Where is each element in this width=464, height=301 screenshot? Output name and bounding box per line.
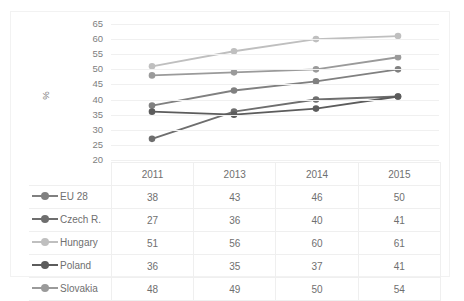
table-row: Hungary51566061 (29, 232, 441, 255)
data-point (149, 72, 156, 79)
table-row: Poland36353741 (29, 255, 441, 278)
legend-marker-icon (32, 214, 58, 224)
table-cell: 35 (194, 255, 276, 278)
legend-key: Slovakia (32, 283, 98, 294)
data-point (149, 136, 156, 143)
table-cell: 41 (358, 255, 440, 278)
plot-area (111, 24, 439, 160)
chart-figure: % 65605550454035302520 2011201320142015E… (10, 11, 450, 277)
legend-marker-icon (32, 237, 58, 247)
gridline (111, 115, 439, 116)
gridline (111, 69, 439, 70)
table-cell: 43 (194, 186, 276, 209)
legend-marker-icon (32, 260, 58, 270)
table-row: EU 2838434650 (29, 186, 441, 209)
data-point (231, 87, 238, 94)
table-cell: 38 (111, 186, 193, 209)
plot-series-svg (111, 24, 439, 160)
gridline (111, 24, 439, 25)
table-cell: 50 (276, 278, 358, 301)
table-corner-cell (29, 163, 111, 186)
legend-key: Czech R. (32, 214, 101, 225)
gridline (111, 100, 439, 101)
table-header-row: 2011201320142015 (29, 163, 441, 186)
legend-label: Slovakia (60, 283, 98, 294)
gridline (111, 39, 439, 40)
y-axis-tick: 55 (59, 49, 103, 59)
table-cell: 49 (194, 278, 276, 301)
y-axis-tick: 35 (59, 110, 103, 120)
table-cell: 46 (276, 186, 358, 209)
y-axis-tick: 40 (59, 95, 103, 105)
data-table-region: 2011201320142015EU 2838434650Czech R.273… (29, 162, 441, 274)
table-cell: 60 (276, 232, 358, 255)
table-column-header: 2013 (194, 163, 276, 186)
legend-entry-eu-28[interactable]: EU 28 (29, 186, 111, 209)
table-column-header: 2014 (276, 163, 358, 186)
legend-entry-czech-r[interactable]: Czech R. (29, 209, 111, 232)
table-cell: 27 (111, 209, 193, 232)
table-cell: 40 (276, 209, 358, 232)
table-cell: 54 (358, 278, 440, 301)
line-chart: % 65605550454035302520 (11, 12, 449, 162)
table-cell: 61 (358, 232, 440, 255)
legend-label: Poland (60, 260, 91, 271)
legend-key: Poland (32, 260, 91, 271)
legend-label: EU 28 (60, 191, 88, 202)
legend-marker-icon (32, 283, 58, 293)
y-axis-tick: 30 (59, 125, 103, 135)
table-row: Czech R.27364041 (29, 209, 441, 232)
y-axis-tick: 45 (59, 79, 103, 89)
data-point (231, 69, 238, 76)
table-cell: 41 (358, 209, 440, 232)
data-point (313, 105, 320, 112)
y-axis-tick: 65 (59, 19, 103, 29)
legend-entry-hungary[interactable]: Hungary (29, 232, 111, 255)
table-cell: 36 (194, 209, 276, 232)
legend-label: Hungary (60, 237, 98, 248)
gridline (111, 54, 439, 55)
table-cell: 56 (194, 232, 276, 255)
legend-key: EU 28 (32, 191, 88, 202)
table-cell: 48 (111, 278, 193, 301)
table-cell: 37 (276, 255, 358, 278)
table-column-header: 2015 (358, 163, 440, 186)
table-cell: 36 (111, 255, 193, 278)
y-axis-tick: 60 (59, 34, 103, 44)
table-column-header: 2011 (111, 163, 193, 186)
table-row: Slovakia48495054 (29, 278, 441, 301)
data-table: 2011201320142015EU 2838434650Czech R.273… (29, 162, 441, 301)
table-cell: 50 (358, 186, 440, 209)
y-axis-tick-labels: 65605550454035302520 (59, 24, 103, 160)
legend-marker-icon (32, 191, 58, 201)
data-point (395, 93, 402, 100)
legend-entry-poland[interactable]: Poland (29, 255, 111, 278)
legend-label: Czech R. (60, 214, 101, 225)
gridline (111, 84, 439, 85)
data-point (149, 102, 156, 109)
y-axis-tick: 50 (59, 64, 103, 74)
data-point (149, 108, 156, 115)
y-axis-title: % (40, 76, 51, 116)
gridline (111, 160, 439, 161)
legend-entry-slovakia[interactable]: Slovakia (29, 278, 111, 301)
y-axis-tick: 25 (59, 140, 103, 150)
gridline (111, 145, 439, 146)
gridline (111, 130, 439, 131)
table-cell: 51 (111, 232, 193, 255)
legend-key: Hungary (32, 237, 98, 248)
